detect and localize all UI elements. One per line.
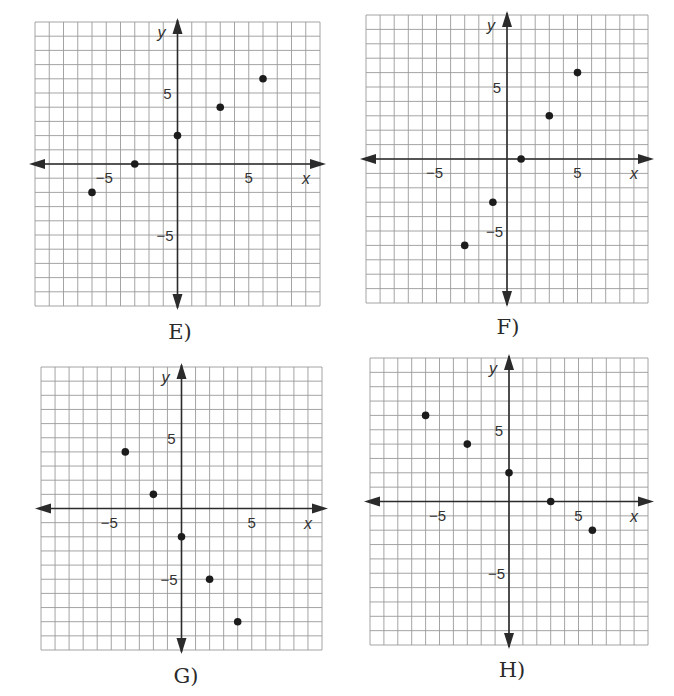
data-point	[461, 242, 469, 250]
x-tick-label: −5	[429, 507, 446, 524]
y-axis-down-arrow-icon	[177, 638, 187, 654]
y-axis-down-arrow-icon	[173, 294, 183, 310]
data-point	[546, 112, 554, 120]
data-point	[547, 498, 555, 506]
tick-labels: −555−5xy	[101, 369, 313, 588]
graph-F: −555−5xy	[366, 15, 648, 303]
x-axis-right-arrow-icon	[310, 159, 326, 169]
data-point	[574, 69, 582, 77]
caption-E: E)	[168, 320, 192, 344]
axes	[29, 18, 326, 310]
y-axis-up-arrow-icon	[173, 18, 183, 34]
x-axis-label: x	[629, 508, 639, 525]
axes	[360, 11, 654, 307]
y-tick-label: −5	[156, 227, 173, 244]
x-tick-label: −5	[426, 164, 443, 181]
y-tick-label: −5	[486, 223, 503, 240]
tick-labels: −555−5xy	[96, 24, 311, 244]
data-point	[234, 618, 242, 626]
x-axis-left-arrow-icon	[29, 159, 45, 169]
x-axis-label: x	[303, 515, 313, 532]
data-point	[174, 132, 182, 140]
axes	[364, 354, 654, 649]
y-tick-label: 5	[495, 422, 503, 439]
data-point	[178, 533, 186, 541]
x-axis-left-arrow-icon	[364, 497, 380, 507]
y-axis-label: y	[486, 17, 496, 34]
y-axis-up-arrow-icon	[177, 363, 187, 379]
y-axis-down-arrow-icon	[502, 291, 512, 307]
data-point	[464, 440, 472, 448]
data-point	[150, 491, 158, 499]
y-tick-label: −5	[488, 565, 505, 582]
x-axis-left-arrow-icon	[360, 154, 376, 164]
coordinate-plane: −555−5xy	[370, 358, 648, 645]
x-tick-label: 5	[248, 514, 256, 531]
y-axis-down-arrow-icon	[504, 633, 514, 649]
coordinate-plane: −555−5xy	[366, 15, 648, 303]
graph-H: −555−5xy	[370, 358, 648, 645]
y-tick-label: 5	[163, 85, 171, 102]
x-axis-right-arrow-icon	[638, 497, 654, 507]
y-tick-label: 5	[167, 430, 175, 447]
data-point	[489, 198, 497, 206]
data-point	[206, 575, 214, 583]
axes	[35, 363, 328, 654]
data-point	[88, 189, 96, 197]
data-point	[216, 103, 224, 111]
x-axis-label: x	[629, 165, 639, 182]
x-tick-label: −5	[101, 514, 118, 531]
caption-G: G)	[174, 664, 199, 688]
x-axis-label: x	[301, 170, 311, 187]
x-tick-label: 5	[573, 164, 581, 181]
data-point	[505, 469, 513, 477]
graph-G: −555−5xy	[41, 367, 322, 650]
x-axis-right-arrow-icon	[638, 154, 654, 164]
x-tick-label: 5	[574, 507, 582, 524]
x-axis-right-arrow-icon	[312, 504, 328, 514]
data-point	[131, 160, 139, 168]
tick-labels: −555−5xy	[426, 17, 639, 240]
tick-labels: −555−5xy	[429, 360, 639, 582]
caption-H: H)	[499, 658, 526, 682]
graph-E: −555−5xy	[35, 22, 320, 306]
x-tick-label: −5	[96, 169, 113, 186]
y-tick-label: 5	[493, 79, 501, 96]
data-point	[517, 155, 525, 163]
data-point	[589, 526, 597, 534]
y-axis-label: y	[488, 360, 498, 377]
caption-F: F)	[497, 315, 520, 339]
y-tick-label: −5	[160, 571, 177, 588]
y-axis-up-arrow-icon	[504, 354, 514, 370]
x-tick-label: 5	[245, 169, 253, 186]
y-axis-label: y	[157, 24, 167, 41]
x-axis-left-arrow-icon	[35, 504, 51, 514]
coordinate-plane: −555−5xy	[35, 22, 320, 306]
y-axis-up-arrow-icon	[502, 11, 512, 27]
y-axis-label: y	[161, 369, 171, 386]
data-point	[422, 412, 430, 420]
coordinate-plane: −555−5xy	[41, 367, 322, 650]
data-point	[259, 75, 267, 83]
data-point	[122, 448, 130, 456]
